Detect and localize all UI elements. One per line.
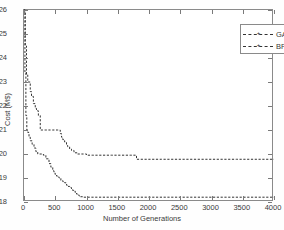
plot-area: + GA + BFO <box>23 9 273 201</box>
x-tick <box>180 196 181 200</box>
x-tick <box>243 196 244 200</box>
series-line-ga <box>24 10 274 159</box>
y-tick <box>268 178 272 179</box>
y-tick <box>24 154 28 155</box>
x-tick <box>274 10 275 14</box>
y-tick-label: 18 <box>0 197 7 206</box>
y-tick <box>268 58 272 59</box>
y-tick <box>24 58 28 59</box>
plus-marker-icon: + <box>256 43 261 48</box>
y-tick <box>24 106 28 107</box>
y-axis-title: Cost (M$) <box>3 55 12 165</box>
legend-label-bfo: BFO <box>273 42 284 51</box>
x-tick-label: 3500 <box>233 203 250 212</box>
x-tick <box>212 196 213 200</box>
y-tick <box>24 34 28 35</box>
x-tick <box>243 10 244 14</box>
legend-box: + GA + BFO <box>240 24 284 54</box>
y-tick <box>24 82 28 83</box>
plus-marker-icon: + <box>256 31 261 36</box>
x-tick <box>180 10 181 14</box>
figure-container: + GA + BFO 05001000150020002500300035004… <box>0 0 284 230</box>
legend-line-sample-ga: + <box>243 29 273 39</box>
y-tick <box>24 10 28 11</box>
x-tick <box>87 196 88 200</box>
legend-line-sample-bfo: + <box>243 41 273 51</box>
x-tick <box>118 10 119 14</box>
curves-svg <box>24 10 274 202</box>
x-tick <box>55 196 56 200</box>
x-tick-label: 3000 <box>202 203 219 212</box>
y-tick <box>24 130 28 131</box>
legend-entry-ga: + GA <box>243 28 284 40</box>
x-tick <box>87 10 88 14</box>
x-tick-label: 4000 <box>265 203 282 212</box>
y-tick <box>24 178 28 179</box>
y-tick <box>268 10 272 11</box>
x-tick-label: 0 <box>21 203 25 212</box>
y-tick-label: 26 <box>0 5 7 14</box>
y-tick <box>268 82 272 83</box>
x-tick <box>274 196 275 200</box>
x-axis-title: Number of Generations <box>0 214 284 223</box>
x-tick <box>118 196 119 200</box>
x-tick-label: 500 <box>48 203 61 212</box>
x-tick-label: 1500 <box>108 203 125 212</box>
x-tick-label: 2000 <box>140 203 157 212</box>
y-tick <box>268 130 272 131</box>
legend-label-ga: GA <box>273 30 284 39</box>
legend-entry-bfo: + BFO <box>243 40 284 52</box>
x-tick <box>149 10 150 14</box>
x-tick <box>55 10 56 14</box>
x-tick-label: 2500 <box>171 203 188 212</box>
y-tick <box>268 154 272 155</box>
series-line-bfo <box>24 10 274 197</box>
y-tick-label: 19 <box>0 173 7 182</box>
x-tick-label: 1000 <box>77 203 94 212</box>
x-tick <box>149 196 150 200</box>
x-tick <box>24 196 25 200</box>
y-tick-label: 25 <box>0 29 7 38</box>
y-tick <box>268 106 272 107</box>
x-tick <box>212 10 213 14</box>
